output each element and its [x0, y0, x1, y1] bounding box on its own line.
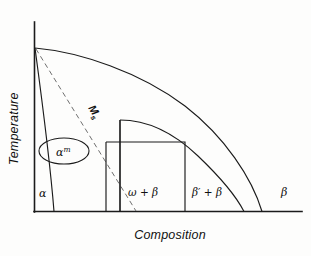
temperature-axis-title: Temperature	[7, 92, 21, 165]
beta-region-label: β	[280, 186, 287, 199]
diagram-canvas: Temperature Composition Ms αm α ω + β β′…	[0, 0, 311, 256]
alpha-region-label: α	[39, 187, 47, 200]
composition-axis-title: Composition	[134, 228, 206, 242]
beta-prime-region-box	[106, 142, 185, 212]
ms-label: Ms	[84, 103, 104, 122]
alpha-martensite-label: αm	[56, 145, 71, 159]
omega-beta-region-label: ω + β	[128, 186, 158, 198]
phase-diagram-figure: Temperature Composition Ms αm α ω + β β′…	[0, 0, 311, 256]
ms-dashed-line	[36, 49, 136, 211]
ms-label-group: Ms	[84, 103, 104, 122]
beta-prime-beta-region-label: β′ + β	[191, 186, 222, 198]
